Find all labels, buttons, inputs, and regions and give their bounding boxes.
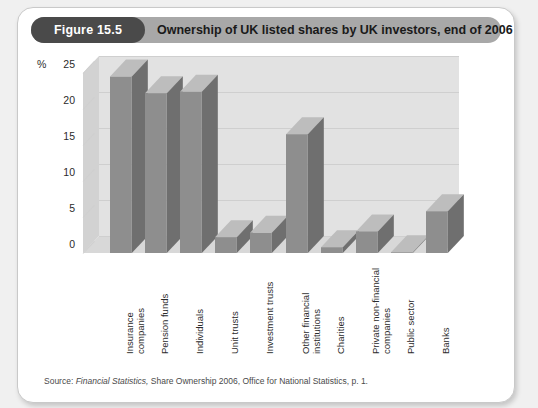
- x-axis-category-line: Charities: [336, 317, 347, 355]
- bar-3d-shape: [356, 52, 396, 253]
- x-axis-category-line: Investment trusts: [265, 282, 276, 354]
- bar-front-face: [145, 93, 167, 253]
- bar: [426, 45, 448, 253]
- y-axis-tick-label: 5: [69, 202, 75, 214]
- x-axis-category-label: Banks: [441, 328, 452, 354]
- chart-panel: % 0510152025 InsurancecompaniesPension f…: [31, 48, 501, 360]
- figure-page: Figure 15.5 Ownership of UK listed share…: [0, 0, 538, 408]
- x-axis-category-label: Public sector: [406, 300, 417, 354]
- bar: [356, 45, 378, 253]
- x-axis-category-label: Unit trusts: [230, 311, 241, 354]
- bar: [250, 45, 272, 253]
- bar: [145, 45, 167, 253]
- bar-front-face: [356, 231, 378, 253]
- bar: [321, 45, 343, 253]
- source-note: Source: Financial Statistics, Share Owne…: [44, 376, 368, 386]
- bar-series: [83, 56, 473, 264]
- bar-front-face: [426, 211, 448, 253]
- bar-front-face: [180, 92, 202, 253]
- y-axis-tick-label: 15: [63, 130, 75, 142]
- source-detail: Share Ownership 2006, Office for Nationa…: [151, 376, 368, 386]
- y-axis-unit-label: %: [37, 58, 46, 70]
- bar-front-face: [110, 77, 132, 253]
- x-axis-labels: InsurancecompaniesPension fundsIndividua…: [83, 262, 473, 358]
- x-axis-category-label: Individuals: [195, 309, 206, 354]
- bar-front-face: [250, 233, 272, 253]
- x-axis-category-label: Charities: [336, 317, 347, 355]
- x-axis-category-line: Pension funds: [160, 294, 171, 354]
- x-axis-category-line: Public sector: [406, 300, 417, 354]
- bar-front-face: [391, 252, 413, 253]
- source-publication: Financial Statistics,: [76, 376, 149, 386]
- source-prefix: Source:: [44, 376, 73, 386]
- x-axis-category-label: Pension funds: [160, 294, 171, 354]
- bar: [215, 45, 237, 253]
- x-axis-category-line: companies: [382, 268, 393, 354]
- x-axis-category-line: institutions: [311, 293, 322, 354]
- bar: [286, 45, 308, 253]
- bar-3d-shape: [391, 52, 431, 253]
- y-axis-tick-label: 0: [69, 238, 75, 250]
- y-axis-tick-label: 25: [63, 58, 75, 70]
- bar-front-face: [215, 237, 237, 253]
- bar-3d-shape: [250, 52, 290, 253]
- x-axis-category-label: Insurancecompanies: [125, 308, 146, 354]
- figure-card: Figure 15.5 Ownership of UK listed share…: [17, 7, 515, 403]
- x-axis-category-line: companies: [135, 308, 146, 354]
- x-axis-category-label: Private non-financialcompanies: [371, 268, 392, 354]
- bar: [391, 45, 413, 253]
- bar: [180, 45, 202, 253]
- bar-3d-shape: [110, 52, 150, 253]
- bar-front-face: [286, 134, 308, 253]
- plot-area: [83, 56, 473, 264]
- x-axis-category-label: Other financialinstitutions: [301, 293, 322, 354]
- y-axis-tick-label: 20: [63, 94, 75, 106]
- y-axis: % 0510152025: [31, 56, 79, 264]
- bar-3d-shape: [180, 52, 220, 253]
- bar-3d-shape: [286, 52, 326, 253]
- x-axis-category-line: Other financial: [301, 293, 312, 354]
- x-axis-category-line: Unit trusts: [230, 311, 241, 354]
- figure-number-label: Figure 15.5: [54, 23, 122, 37]
- bar: [110, 45, 132, 253]
- bar-front-face: [321, 247, 343, 253]
- x-axis-category-line: Banks: [441, 328, 452, 354]
- x-axis-category-line: Insurance: [125, 308, 136, 354]
- bar-top-face: [391, 235, 429, 252]
- bar-3d-shape: [215, 52, 255, 253]
- x-axis-category-line: Private non-financial: [371, 268, 382, 354]
- x-axis-category-line: Individuals: [195, 309, 206, 354]
- bar-3d-shape: [145, 52, 185, 253]
- y-axis-tick-label: 10: [63, 166, 75, 178]
- figure-number-pill: Figure 15.5: [31, 17, 145, 43]
- figure-header: Figure 15.5 Ownership of UK listed share…: [31, 17, 501, 43]
- x-axis-category-label: Investment trusts: [265, 282, 276, 354]
- bar-3d-shape: [321, 52, 361, 253]
- figure-title: Ownership of UK listed shares by UK inve…: [157, 23, 513, 37]
- bar-3d-shape: [426, 52, 466, 253]
